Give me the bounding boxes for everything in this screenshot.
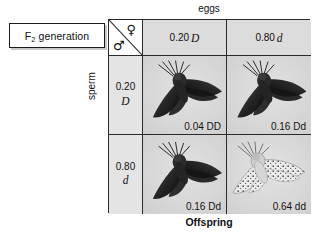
- column-header-allele: d: [275, 32, 283, 44]
- row-header-frequency: 0.20: [116, 80, 135, 94]
- punnett-cell-DD: 0.04 DD: [143, 56, 227, 135]
- f2-suffix: generation: [36, 30, 90, 42]
- column-header-D: 0.20 D: [143, 20, 227, 56]
- eggs-axis-label: eggs: [108, 3, 310, 14]
- f2-subscript: 2: [31, 35, 35, 44]
- punnett-cell-Dd-bottom: 0.16 Dd: [143, 135, 227, 214]
- venus-icon: ♀: [126, 23, 136, 36]
- f2-generation-label: F2 generation: [25, 30, 89, 42]
- row-header-allele: d: [123, 173, 129, 189]
- punnett-cell-dd: 0.64 dd: [227, 135, 311, 214]
- offspring-label: Offspring: [108, 216, 310, 228]
- punnett-cell-Dd-top: 0.16 Dd: [227, 56, 311, 135]
- mars-icon: ♂: [113, 39, 125, 52]
- punnett-corner-cell: ♀ ♂: [109, 20, 143, 56]
- row-header-D: 0.20 D: [109, 56, 143, 135]
- sperm-axis-label: sperm: [86, 72, 97, 100]
- column-header-frequency: 0.80: [255, 32, 274, 43]
- punnett-cell-caption: 0.64 dd: [273, 201, 306, 212]
- column-header-frequency: 0.20: [170, 32, 189, 43]
- row-header-frequency: 0.80: [116, 160, 135, 174]
- punnett-square-grid: ♀ ♂ 0.20 D 0.80 d 0.20 D: [108, 19, 310, 213]
- column-header-allele: D: [189, 32, 199, 44]
- row-header-d: 0.80 d: [109, 135, 143, 214]
- row-header-allele: D: [121, 94, 129, 110]
- f2-generation-badge: F2 generation: [9, 23, 105, 48]
- column-header-d: 0.80 d: [227, 20, 311, 56]
- punnett-cell-caption: 0.16 Dd: [186, 201, 221, 212]
- punnett-cell-caption: 0.04 DD: [184, 121, 221, 132]
- punnett-cell-caption: 0.16 Dd: [271, 121, 306, 132]
